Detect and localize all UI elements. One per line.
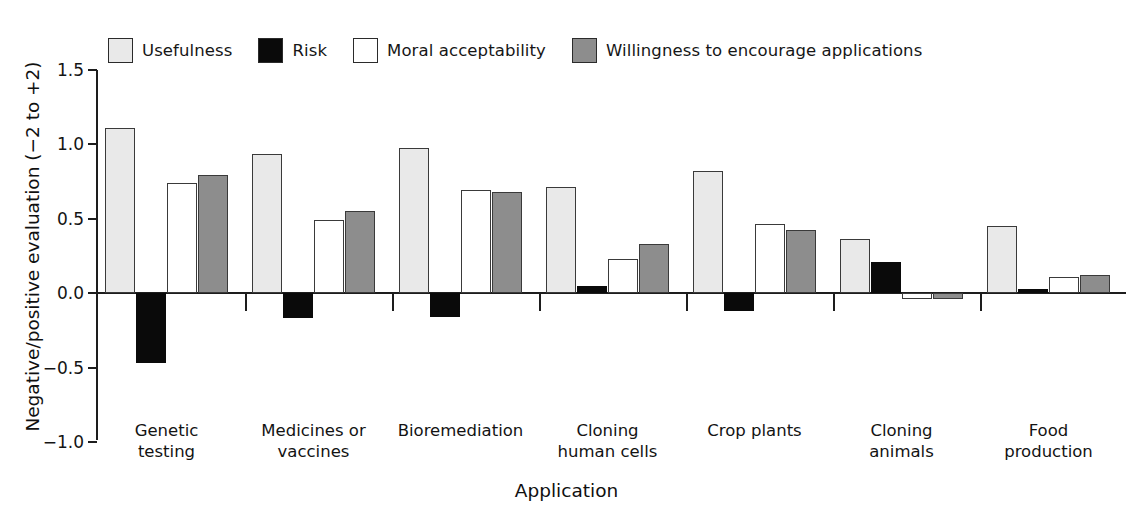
bar [167,183,197,293]
category-label-line: animals [822,441,982,462]
bar [1049,277,1079,293]
category-label-line: Crop plants [675,420,835,441]
bar [840,239,870,293]
bar [693,171,723,293]
y-axis-tick [88,143,97,145]
category-label-line: Food [969,420,1129,441]
bar [105,128,135,293]
bar [724,293,754,311]
bar [345,211,375,293]
bar [987,226,1017,293]
bar [608,259,638,293]
category-label-line: production [969,441,1129,462]
x-axis-category-label: Foodproduction [969,420,1129,462]
category-label-line: testing [87,441,247,462]
bar [871,262,901,293]
x-axis-group-tick [392,294,394,311]
plot-area: 1.51.00.50.0−0.5−1.0 GenetictestingMedic… [0,0,1133,513]
category-label-line: Cloning [822,420,982,441]
bar [198,175,228,293]
category-label-line: Cloning [528,420,688,441]
x-axis-group-tick [980,294,982,311]
category-label-line: Bioremediation [381,420,541,441]
bar [1080,275,1110,293]
category-label-line: Genetic [87,420,247,441]
y-axis-line [96,70,98,440]
x-axis-category-label: Bioremediation [381,420,541,441]
bar [283,293,313,318]
x-axis-title: Application [0,480,1133,501]
bar [546,187,576,293]
x-axis-group-tick [833,294,835,311]
bar [902,293,932,299]
x-axis-category-label: Genetictesting [87,420,247,462]
bar [399,148,429,293]
category-label-line: vaccines [234,441,394,462]
bar [933,293,963,299]
x-axis-category-label: Cloninghuman cells [528,420,688,462]
bar [492,192,522,293]
y-axis-tick [88,292,97,294]
bar [461,190,491,293]
x-axis-category-label: Crop plants [675,420,835,441]
x-axis-group-tick [539,294,541,311]
bar [786,230,816,293]
y-axis-tick [88,69,97,71]
x-axis-category-label: Medicines orvaccines [234,420,394,462]
bar [314,220,344,293]
bar [755,224,785,293]
y-axis-tick [88,367,97,369]
y-axis-title: Negative/positive evaluation (−2 to +2) [22,47,43,447]
bar [1018,289,1048,293]
bar [639,244,669,293]
bar [577,286,607,293]
chart-figure: Usefulness Risk Moral acceptability Will… [0,0,1133,513]
category-label-line: human cells [528,441,688,462]
y-axis-tick [88,218,97,220]
bar [136,293,166,363]
x-axis-group-tick [686,294,688,311]
bar [252,154,282,293]
x-axis-group-tick [245,294,247,311]
bar [430,293,460,317]
x-axis-category-label: Cloninganimals [822,420,982,462]
category-label-line: Medicines or [234,420,394,441]
